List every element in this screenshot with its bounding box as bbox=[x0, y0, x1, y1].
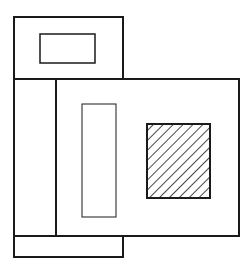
bottom-strip bbox=[14, 236, 123, 257]
hatched-square bbox=[147, 124, 210, 198]
tall-inner-rect bbox=[82, 104, 116, 217]
left-column bbox=[14, 79, 56, 236]
top-box bbox=[14, 17, 123, 79]
diagram-canvas bbox=[0, 0, 252, 271]
top-inner-rect bbox=[40, 34, 95, 63]
